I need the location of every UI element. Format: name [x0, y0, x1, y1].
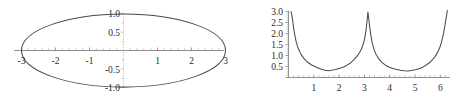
- x-tick-label-3: 3: [362, 83, 367, 93]
- y-tick-label-1.0: 1.0: [271, 51, 283, 61]
- y-tick-label-neg1.0: -1.0: [105, 83, 120, 93]
- x-tick-label-4: 4: [387, 83, 392, 93]
- y-tick-label-0.5: 0.5: [271, 62, 283, 72]
- figure-container: -3 -2 -1 1 2 3 1.0 0.5 -0.5 -1.0: [0, 0, 458, 100]
- y-tick-label-1.5: 1.5: [271, 40, 283, 50]
- x-tick-label-5: 5: [413, 83, 418, 93]
- x-tick-label-neg1: -1: [86, 56, 94, 66]
- y-tick-label-2.0: 2.0: [271, 29, 283, 39]
- x-tick-label-neg2: -2: [52, 56, 60, 66]
- y-tick-label-neg0.5: -0.5: [105, 65, 120, 75]
- x-tick-label-2: 2: [337, 83, 342, 93]
- x-tick-label-3: 3: [223, 56, 228, 66]
- x-tick-label-6: 6: [438, 83, 443, 93]
- ellipse-svg: -3 -2 -1 1 2 3 1.0 0.5 -0.5 -1.0: [0, 0, 232, 100]
- y-tick-label-1.0: 1.0: [108, 9, 120, 19]
- y-tick-label-0.5: 0.5: [108, 28, 120, 38]
- x-tick-label-2: 2: [189, 56, 194, 66]
- peaks-svg: 3.0 2.5 2.0 1.5 1.0 0.5 1 2 3 4 5 6: [232, 0, 458, 100]
- chart-peaks: 3.0 2.5 2.0 1.5 1.0 0.5 1 2 3 4 5 6: [232, 0, 458, 100]
- y-tick-label-3.0: 3.0: [271, 7, 283, 17]
- y-ticks-right: [286, 12, 289, 76]
- x-tick-label-1: 1: [155, 56, 160, 66]
- x-tick-label-neg3: -3: [18, 56, 26, 66]
- chart-ellipse: -3 -2 -1 1 2 3 1.0 0.5 -0.5 -1.0: [0, 0, 232, 100]
- y-tick-label-2.5: 2.5: [271, 18, 283, 28]
- x-tick-label-1: 1: [311, 83, 316, 93]
- x-ticks-right: [294, 75, 446, 78]
- peaks-curve: [291, 10, 447, 71]
